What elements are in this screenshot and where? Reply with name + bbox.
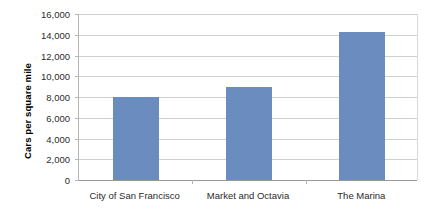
- y-axis-tick-label: 8,000: [46, 92, 70, 103]
- y-axis-tick-label: 14,000: [41, 29, 70, 40]
- y-axis-tick-label: 2,000: [46, 154, 70, 165]
- x-axis-category-labels: City of San FranciscoMarket and OctaviaT…: [78, 190, 418, 206]
- bar[interactable]: [113, 97, 159, 180]
- bar[interactable]: [226, 87, 272, 180]
- y-axis-tick-mark: [75, 180, 79, 181]
- x-axis-tick-mark: [192, 180, 193, 184]
- x-axis-category-label: City of San Francisco: [90, 190, 180, 201]
- y-axis-tick-labels: 02,0004,0006,0008,00010,00012,00014,0001…: [26, 14, 74, 180]
- y-axis-tick-label: 0: [65, 175, 70, 186]
- bar-chart: Cars per square mile 02,0004,0006,0008,0…: [0, 0, 439, 222]
- y-axis-tick-label: 4,000: [46, 133, 70, 144]
- gridline: [79, 180, 417, 181]
- x-axis-category-label: The Marina: [337, 190, 385, 201]
- y-axis-tick-label: 6,000: [46, 112, 70, 123]
- bar[interactable]: [339, 32, 385, 180]
- bars-layer: [79, 14, 417, 180]
- x-axis-category-label: Market and Octavia: [207, 190, 289, 201]
- y-axis-tick-label: 12,000: [41, 50, 70, 61]
- y-axis-tick-label: 16,000: [41, 9, 70, 20]
- plot-area: [78, 14, 418, 180]
- x-axis-tick-mark: [306, 180, 307, 184]
- y-axis-tick-label: 10,000: [41, 71, 70, 82]
